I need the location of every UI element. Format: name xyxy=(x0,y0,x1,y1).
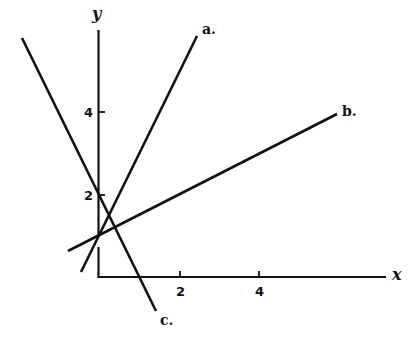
line-c-label: c. xyxy=(160,312,173,328)
line-b xyxy=(68,114,337,251)
line-c xyxy=(22,38,156,311)
line-a-label: a. xyxy=(202,21,216,37)
line-b-label: b. xyxy=(342,103,357,119)
x-axis-label: x xyxy=(391,265,402,284)
y-tick-label-2: 2 xyxy=(84,188,93,203)
x-tick-label-4: 4 xyxy=(255,284,264,299)
y-axis-label: y xyxy=(91,4,103,23)
y-tick-label-4: 4 xyxy=(84,105,93,120)
x-tick-label-2: 2 xyxy=(176,284,185,299)
line-graph: 4 2 2 4 y x a. b. c. xyxy=(0,0,416,347)
